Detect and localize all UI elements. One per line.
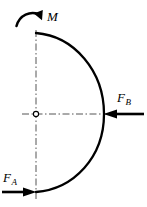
force-a-label-subscript: A [11,177,17,187]
free-body-diagram-figure: M FB FA [0,0,147,207]
center-pivot-marker [33,111,38,116]
moment-arrow-head [34,10,43,20]
force-b-label-base: F [117,90,125,105]
force-a-label-base: F [3,170,11,185]
force-a-label: FA [3,169,17,187]
force-b-arrow-head [104,109,118,118]
force-b-label-subscript: B [125,97,131,107]
force-a-arrow-head [23,187,37,196]
moment-arrow [17,10,43,26]
moment-label: M [47,8,58,24]
force-a-arrow [2,187,37,196]
force-b-arrow [104,109,145,118]
semicircular-arc [36,33,104,192]
moment-label-base: M [47,9,58,24]
moment-arrow-arc [17,13,39,26]
force-b-label: FB [117,89,131,107]
